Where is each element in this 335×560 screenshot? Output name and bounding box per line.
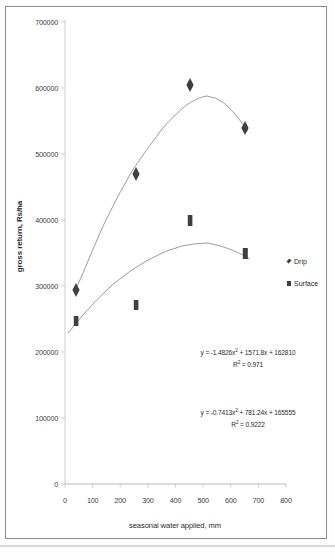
scanned-page: 700000 600000 500000 400000 300000 20000… xyxy=(0,0,335,560)
equation-drip-part-b: + 1571.8x + 162810 xyxy=(238,349,296,356)
series-surface-markers xyxy=(74,215,248,326)
legend-item-drip[interactable]: Drip xyxy=(286,258,334,265)
data-point-surface-2 xyxy=(134,300,139,310)
equation-drip-part-a: y = -1.4826x xyxy=(201,349,236,356)
x-tick-label-200: 200 xyxy=(106,496,134,505)
x-tick-label-400: 400 xyxy=(162,496,190,505)
r-squared-drip-value: = 0.971 xyxy=(240,361,263,368)
x-tick-label-600: 600 xyxy=(217,496,245,505)
y-tick-label-0: 0 xyxy=(18,480,58,489)
x-tick-label-100: 100 xyxy=(79,496,107,505)
y-tick-label-200000: 200000 xyxy=(18,348,58,357)
data-point-drip-3 xyxy=(186,78,193,92)
equation-line-drip: y = -1.4826x2 + 1571.8x + 162810 xyxy=(186,347,310,359)
y-axis-title: gross return, Rs/ha xyxy=(15,182,24,292)
x-tick-label-700: 700 xyxy=(244,496,272,505)
diamond-marker-icon xyxy=(286,259,292,265)
x-tick-label-300: 300 xyxy=(134,496,162,505)
equation-line-surface: y = -0.7413x2 + 781.24x + 165555 xyxy=(186,407,310,419)
trendline-equation-drip: y = -1.4826x2 + 1571.8x + 162810 R2 = 0.… xyxy=(186,347,310,370)
trendline-drip xyxy=(76,96,248,289)
y-tick-marks xyxy=(62,22,66,484)
data-point-surface-4 xyxy=(243,248,248,259)
data-point-drip-1 xyxy=(72,283,79,297)
legend-label-drip: Drip xyxy=(294,258,307,265)
x-tick-marks xyxy=(65,484,286,488)
legend-label-surface: Surface xyxy=(294,280,318,287)
data-point-surface-3 xyxy=(188,215,193,226)
y-tick-label-100000: 100000 xyxy=(18,414,58,423)
y-tick-label-400000: 400000 xyxy=(18,216,58,225)
equation-surface-part-b: + 781.24x + 165555 xyxy=(238,409,296,416)
legend-item-surface[interactable]: Surface xyxy=(286,280,334,287)
series-drip-markers xyxy=(72,78,248,297)
y-tick-label-300000: 300000 xyxy=(18,282,58,291)
chart-figure: 700000 600000 500000 400000 300000 20000… xyxy=(0,0,335,560)
y-tick-label-600000: 600000 xyxy=(18,84,58,93)
y-tick-label-700000: 700000 xyxy=(18,18,58,27)
square-marker-icon xyxy=(286,281,292,287)
x-tick-label-800: 800 xyxy=(272,496,300,505)
r-squared-line-drip: R2 = 0.971 xyxy=(186,359,310,371)
r-squared-line-surface: R2 = 0.9222 xyxy=(186,419,310,431)
r-squared-surface-value: = 0.9222 xyxy=(238,421,264,428)
y-tick-label-500000: 500000 xyxy=(18,150,58,159)
data-point-surface-1 xyxy=(74,316,79,326)
trendline-equation-surface: y = -0.7413x2 + 781.24x + 165555 R2 = 0.… xyxy=(186,407,310,430)
x-axis-title: seasonal water applied, mm xyxy=(60,521,290,530)
x-tick-label-0: 0 xyxy=(51,496,79,505)
trendline-surface xyxy=(68,243,250,333)
x-tick-label-500: 500 xyxy=(189,496,217,505)
equation-surface-part-a: y = -0.7413x xyxy=(201,409,236,416)
chart-legend: Drip Surface xyxy=(286,258,334,302)
